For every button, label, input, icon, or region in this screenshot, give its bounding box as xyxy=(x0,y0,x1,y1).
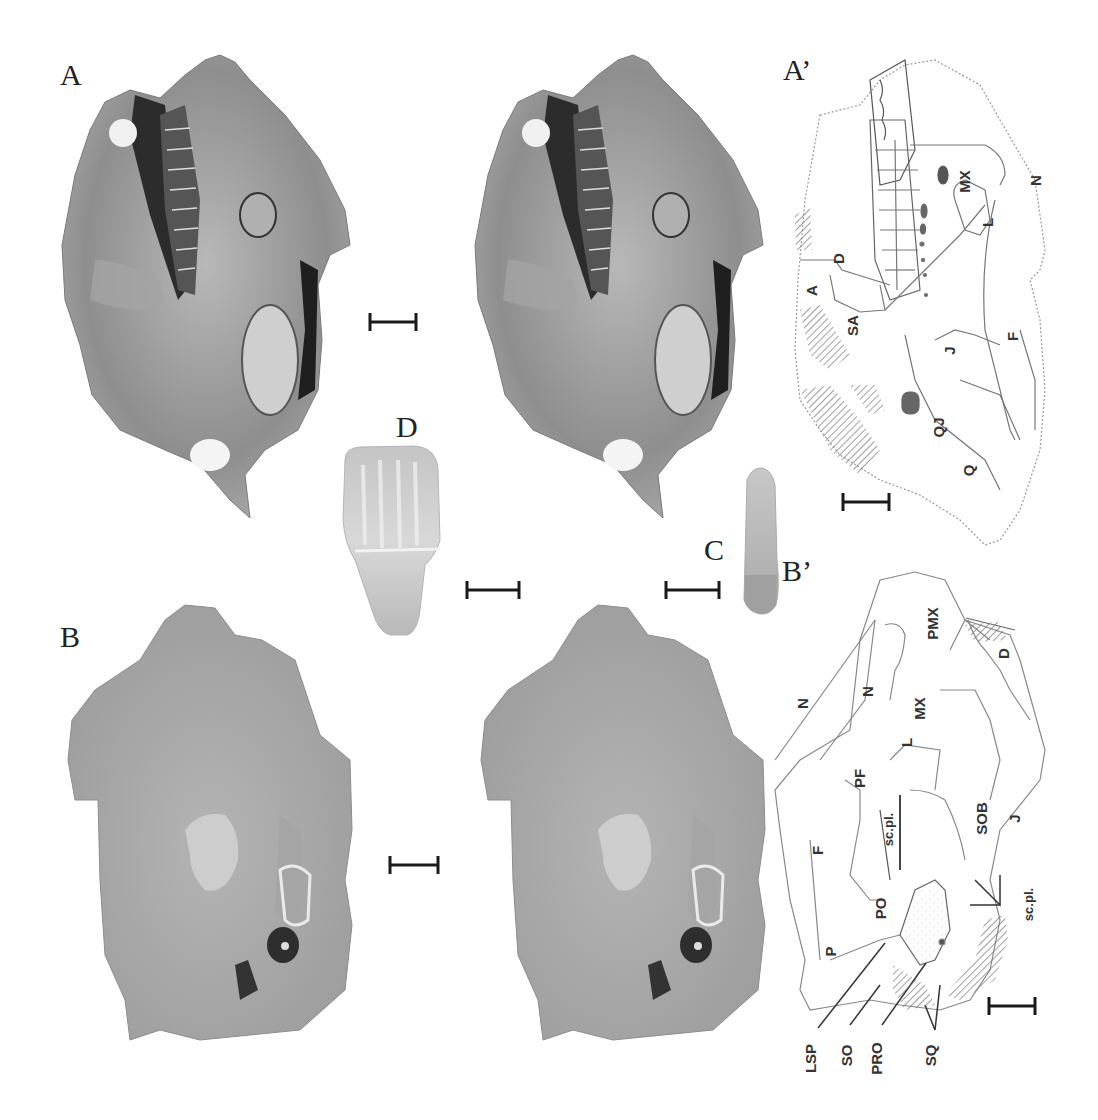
hatch-region xyxy=(945,915,1008,1000)
specimen-photo-a xyxy=(62,55,350,518)
hatch-region xyxy=(800,305,850,370)
scale-bar-b xyxy=(390,856,438,874)
hatch-region xyxy=(893,965,935,1010)
label-a-prime-qj: QJ xyxy=(930,417,947,437)
label-a-prime-f: F xyxy=(1004,332,1021,341)
label-b-prime-sob: SOB xyxy=(973,802,990,835)
label-a-prime-a: A xyxy=(803,285,820,296)
label-b-prime-n-outer: N xyxy=(794,698,811,709)
line-drawing-a-prime xyxy=(795,60,1045,545)
hatch-region xyxy=(850,385,885,415)
label-b-prime-sc-pl-lower: sc.pl. xyxy=(1021,888,1036,921)
label-b-prime-pro: PRO xyxy=(868,1042,885,1075)
label-b-prime-p: P xyxy=(822,946,839,956)
label-b-prime-po: PO xyxy=(872,898,889,920)
hatch-region xyxy=(965,622,1008,642)
scale-bar-c xyxy=(666,581,719,599)
label-b-prime-sc-pl-upper: sc.pl. xyxy=(881,813,896,846)
label-b-prime-lsp: LSP xyxy=(802,1044,819,1073)
label-b-prime-f: F xyxy=(809,846,826,855)
specimen-photo-b-stereo xyxy=(481,605,765,1040)
tooth-c xyxy=(744,468,778,614)
label-a-prime-j: J xyxy=(941,346,958,354)
label-b-prime-sq: SQ xyxy=(922,1045,939,1067)
scale-bar-a-prime xyxy=(843,493,889,511)
hatch-region xyxy=(795,208,812,250)
label-b-prime-j: J xyxy=(1006,814,1023,822)
figure-canvas xyxy=(0,0,1098,1120)
label-b-prime-pf: PF xyxy=(851,769,868,788)
label-b-prime-l: L xyxy=(898,738,915,747)
label-a-prime-d: D xyxy=(830,253,847,264)
label-a-prime-sa: SA xyxy=(844,315,861,336)
label-a-prime-q: Q xyxy=(960,465,977,477)
scale-bar-d xyxy=(467,581,519,599)
specimen-photo-b xyxy=(68,605,352,1040)
line-drawing-b-prime xyxy=(775,572,1045,1030)
label-b-prime-n-inner: N xyxy=(859,686,876,697)
scale-bar-b-prime xyxy=(989,997,1035,1015)
label-b-prime-so: SO xyxy=(838,1045,855,1067)
scale-bar-a xyxy=(370,313,416,331)
label-a-prime-mx: MX xyxy=(956,170,973,193)
label-a-prime-n: N xyxy=(1027,175,1044,186)
label-a-prime-l: L xyxy=(979,218,996,227)
label-b-prime-d: D xyxy=(995,648,1012,659)
label-b-prime-pmx: PMX xyxy=(924,607,941,640)
tooth-d xyxy=(343,446,440,635)
label-b-prime-mx: MX xyxy=(911,697,928,720)
specimen-photo-a-stereo xyxy=(475,55,763,518)
